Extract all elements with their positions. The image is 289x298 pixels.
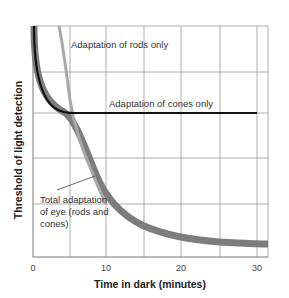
x-tick-10: 10	[101, 263, 111, 273]
dark-adaptation-chart: Adaptation of rods only Adaptation of co…	[0, 0, 289, 298]
y-axis-label: Threshold of light detection	[12, 81, 24, 219]
cones-label: Adaptation of cones only	[109, 98, 213, 109]
x-tick-0: 0	[30, 263, 35, 273]
x-tick-20: 20	[176, 263, 186, 273]
rods-label: Adaptation of rods only	[71, 39, 168, 50]
total-label-line3: cones)	[40, 218, 69, 229]
annotation-pointer	[57, 176, 95, 190]
total-label-line1: Total adaptation	[40, 194, 107, 205]
total-label-line2: of eye (rods and	[40, 206, 109, 217]
x-axis-label: Time in dark (minutes)	[94, 278, 206, 290]
x-tick-30: 30	[252, 263, 262, 273]
